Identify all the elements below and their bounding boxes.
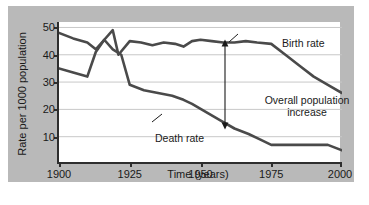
x-tick-label-1975: 1975 bbox=[259, 169, 283, 180]
chart-panel-inner: Rate per 1000 population Time (years) 50… bbox=[8, 6, 354, 182]
death-rate-leader-line bbox=[152, 114, 162, 122]
x-tick-label-1900: 1900 bbox=[47, 169, 71, 180]
overall-increase-line1: Overall population bbox=[265, 94, 350, 106]
birth-rate-leader-line bbox=[229, 34, 238, 42]
x-tick-label-2000: 2000 bbox=[328, 169, 352, 180]
y-tick-label-50: 50 bbox=[43, 22, 55, 33]
y-tick-label-30: 30 bbox=[43, 77, 55, 88]
overall-increase-line2: increase bbox=[287, 106, 327, 118]
y-axis-label: Rate per 1000 population bbox=[16, 32, 28, 156]
y-tick-label-10: 10 bbox=[43, 131, 55, 142]
x-tick-label-1950: 1950 bbox=[188, 169, 212, 180]
overall-increase-label: Overall population increase bbox=[255, 94, 359, 119]
chart-panel: Rate per 1000 population Time (years) 50… bbox=[8, 6, 354, 182]
birth-rate-label: Birth rate bbox=[282, 37, 325, 49]
y-tick-label-40: 40 bbox=[43, 49, 55, 60]
plot-area: 50 40 30 20 10 1900 1925 1950 1975 20 bbox=[57, 22, 340, 164]
death-rate-label: Death rate bbox=[155, 132, 204, 144]
x-tick-label-1925: 1925 bbox=[118, 169, 142, 180]
figure-container: Rate per 1000 population Time (years) 50… bbox=[0, 0, 369, 205]
y-tick-label-20: 20 bbox=[43, 104, 55, 115]
overall-increase-arrow bbox=[222, 40, 229, 130]
